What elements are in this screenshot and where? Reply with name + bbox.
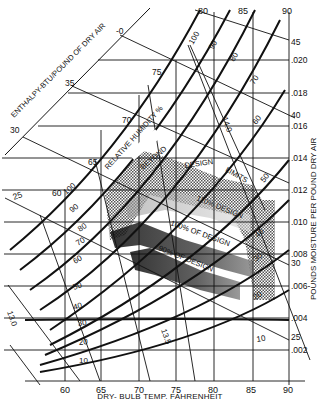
svg-text:90: 90 xyxy=(282,6,292,16)
svg-text:30: 30 xyxy=(291,258,301,268)
svg-text:.014: .014 xyxy=(291,153,308,163)
svg-text:85: 85 xyxy=(238,6,248,16)
svg-text:.006-: .006- xyxy=(291,281,311,291)
svg-text:80: 80 xyxy=(198,6,208,16)
svg-text:.012: .012 xyxy=(291,185,308,195)
enthalpy-axis-title: ENTHALPY-BTU/POUND OF DRY AIR xyxy=(9,21,108,120)
svg-text:70: 70 xyxy=(122,115,132,125)
svg-text:35: 35 xyxy=(65,78,75,88)
svg-text:.018: .018 xyxy=(291,88,308,98)
svg-text:.010: .010 xyxy=(291,217,308,227)
svg-text:100: 100 xyxy=(62,181,78,197)
y-tick-labels: .020 .018 .016 .014 .012 .010 .008 .006-… xyxy=(291,55,311,355)
psychrometric-chart: 60 65 70 75 80 85 90 80 85 90 .020 .018 … xyxy=(0,0,320,408)
svg-text:14.0: 14.0 xyxy=(220,116,234,134)
svg-text:.004: .004 xyxy=(291,313,308,323)
svg-text:.020: .020 xyxy=(291,55,308,65)
svg-text:30: 30 xyxy=(10,125,20,135)
svg-text:DESIGN: DESIGN xyxy=(184,157,214,170)
svg-text:13.0: 13.0 xyxy=(5,310,19,328)
svg-text:80: 80 xyxy=(76,221,89,234)
y-axis-title: POUNDS MOISTURE PER POUND DRY AIR xyxy=(309,137,318,300)
svg-text:50: 50 xyxy=(72,280,84,292)
svg-text:13.5: 13.5 xyxy=(159,328,173,346)
svg-text:.016: .016 xyxy=(291,121,308,131)
svg-text:20: 20 xyxy=(78,337,88,347)
svg-text:75: 75 xyxy=(152,67,162,77)
enthalpy-scale-line xyxy=(5,8,150,155)
svg-text:100: 100 xyxy=(187,29,202,46)
svg-text:30: 30 xyxy=(77,318,88,328)
svg-text:80: 80 xyxy=(228,50,241,63)
svg-text:25: 25 xyxy=(291,332,301,342)
x-axis-title: DRY- BULB TEMP. FAHRENHEIT xyxy=(0,392,320,401)
svg-text:40: 40 xyxy=(72,301,83,312)
svg-text:.002: .002 xyxy=(291,345,308,355)
top-temp-labels: 80 85 90 xyxy=(198,6,292,16)
svg-text:10: 10 xyxy=(256,333,267,344)
svg-text:45: 45 xyxy=(291,37,301,47)
svg-text:25: 25 xyxy=(11,189,24,202)
svg-text:-0: -0 xyxy=(116,26,124,36)
svg-text:40: 40 xyxy=(291,110,301,120)
svg-text:90: 90 xyxy=(68,202,81,215)
band-right-hatch xyxy=(253,200,275,300)
svg-text:10: 10 xyxy=(79,356,88,365)
svg-text:65: 65 xyxy=(88,157,98,167)
